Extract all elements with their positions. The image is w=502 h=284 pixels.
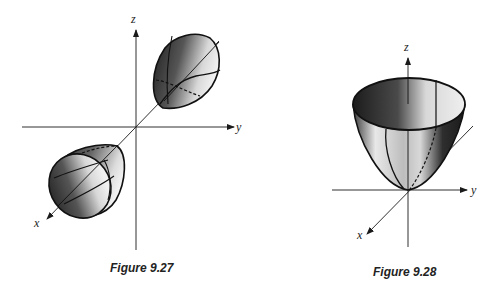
figure-9-27: z y x Figure 9.27 xyxy=(22,12,242,275)
upper-paraboloid-sheet xyxy=(153,34,220,108)
figure-caption: Figure 9.28 xyxy=(373,265,437,279)
figures-canvas: z y x Figure 9.27 z y x Figure 9.28 xyxy=(0,0,502,284)
bowl-rim xyxy=(353,78,465,130)
z-axis-label: z xyxy=(403,40,409,54)
x-axis-label: x xyxy=(33,216,40,230)
lower-paraboloid-sheet xyxy=(36,142,124,230)
upward-paraboloid-bowl xyxy=(353,78,465,190)
x-axis-label: x xyxy=(356,228,363,242)
y-axis-label: y xyxy=(235,120,242,134)
z-axis-label: z xyxy=(130,12,136,26)
figure-9-28: z y x Figure 9.28 xyxy=(332,40,477,279)
figure-caption: Figure 9.27 xyxy=(110,261,175,275)
y-axis-label: y xyxy=(470,183,477,197)
